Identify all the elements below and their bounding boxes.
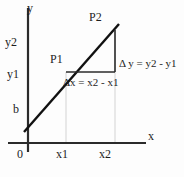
delta-y-annotation: Δ y = y2 - y1 [119, 58, 177, 69]
y-axis-label: y [27, 2, 33, 14]
slope-diagram-figure: y x y2 y1 b 0 x1 x2 P1 P2 Δ y = y2 - y1 … [0, 0, 184, 177]
y-tick-label-y2: y2 [5, 36, 17, 48]
origin-label: 0 [17, 148, 23, 160]
delta-x-annotation: Δx = x2 - x1 [63, 77, 118, 88]
y-intercept-label: b [13, 103, 19, 115]
x-axis-label: x [148, 130, 154, 142]
y-tick-label-y1: y1 [7, 68, 19, 80]
x-tick-label-x1: x1 [56, 148, 68, 160]
x-tick-label-x2: x2 [99, 148, 111, 160]
point-label-p2: P2 [89, 11, 102, 23]
point-label-p1: P1 [50, 53, 63, 65]
diagram-canvas [0, 0, 184, 177]
